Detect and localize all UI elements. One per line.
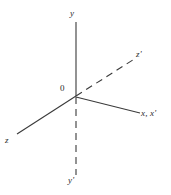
z-prime-axis-label: z'	[136, 50, 142, 59]
z-prime-axis-line	[76, 58, 136, 96]
z-axis-line	[17, 96, 76, 134]
y-axis-label: y	[70, 9, 74, 18]
axes-drawing	[0, 0, 171, 195]
z-axis-label: z	[5, 136, 9, 145]
y-prime-axis-label: y'	[68, 176, 74, 185]
coordinate-axes-figure: y y' z z' x, x' 0	[0, 0, 171, 195]
origin-label: 0	[60, 84, 65, 93]
x-axis-line	[76, 97, 140, 113]
x-axis-label: x, x'	[141, 109, 156, 118]
